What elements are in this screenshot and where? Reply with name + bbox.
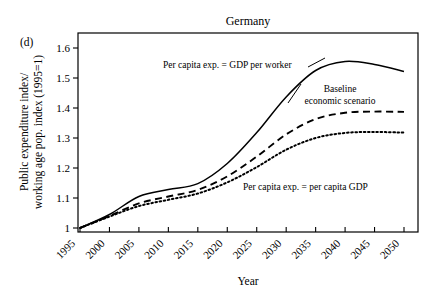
x-tick-label: 2000 [83,237,107,261]
annotation-dashed-series-line1: Baseline [324,84,357,94]
x-tick-label: 2010 [142,237,166,261]
series-line-dashed [80,112,404,228]
y-axis: 11.11.21.31.41.51.6 [56,42,78,234]
annotation-solid-leader [308,58,325,67]
chart-svg: (d) Germany 11.11.21.31.41.51.6 19952000… [0,0,432,296]
figure-panel: (d) Germany 11.11.21.31.41.51.6 19952000… [0,0,432,296]
x-tick-label: 2050 [377,237,401,261]
y-axis-title: Public expenditure index/ working age po… [18,55,45,210]
annotation-solid-series: Per capita exp. = GDP per worker [163,60,293,70]
x-tick-label: 2045 [348,237,372,261]
panel-label: (d) [20,36,34,49]
y-tick-label: 1 [65,222,71,234]
x-tick-label: 2025 [230,237,254,261]
y-axis-title-line2: working age pop. index (1995=1) [32,55,45,210]
x-tick-label: 2030 [260,237,284,261]
x-tick-label: 1995 [53,237,77,261]
y-tick-label: 1.4 [56,102,70,114]
x-tick-label: 2005 [112,237,136,261]
y-tick-label: 1.1 [56,192,70,204]
y-tick-label: 1.5 [56,72,70,84]
x-tick-label: 2015 [171,237,195,261]
annotation-dotted-series: Per capita exp. = per capita GDP [243,182,368,192]
x-tick-label: 2020 [201,237,225,261]
x-axis-title: Year [237,275,258,287]
y-tick-label: 1.2 [56,162,70,174]
annotation-dashed-series-line2: economic scenario [305,96,376,106]
x-tick-label: 2040 [318,237,342,261]
y-tick-label: 1.6 [56,42,70,54]
y-axis-title-line1: Public expenditure index/ [18,72,31,191]
series-line-dotted [80,132,404,228]
chart-title: Germany [226,14,271,28]
x-tick-label: 2035 [289,237,313,261]
y-tick-label: 1.3 [56,132,70,144]
